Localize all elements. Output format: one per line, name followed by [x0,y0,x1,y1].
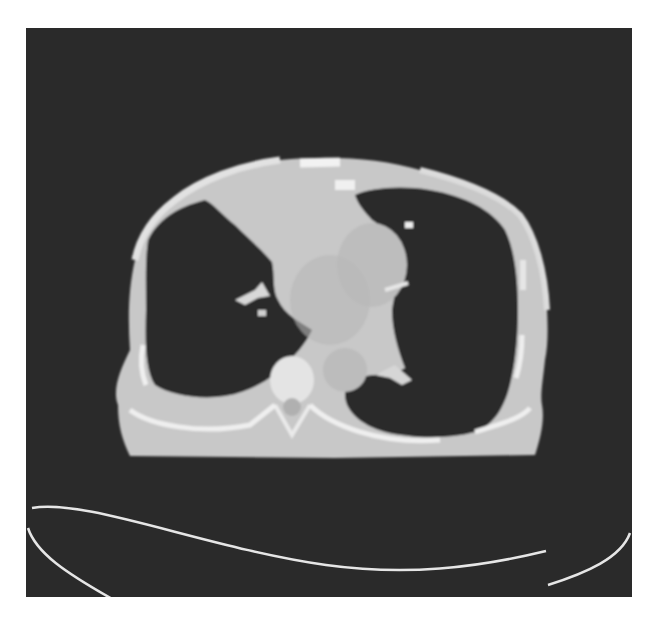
vertebra [270,356,314,404]
ct-scan-frame [26,28,632,597]
ct-scan-image [26,28,632,597]
